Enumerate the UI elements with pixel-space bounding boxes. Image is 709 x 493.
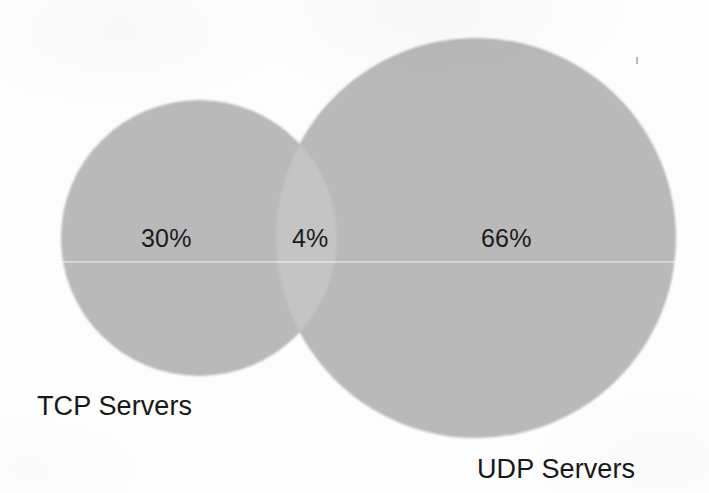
- percent-label-intersection: 4%: [292, 226, 329, 251]
- set-label-udp-servers: UDP Servers: [477, 456, 635, 483]
- percent-label-tcp-only: 30%: [141, 226, 192, 251]
- percent-label-udp-only: 66%: [481, 226, 532, 251]
- set-label-tcp-servers: TCP Servers: [37, 393, 192, 420]
- venn-diagram-figure: 30% 4% 66% TCP Servers UDP Servers: [0, 0, 709, 493]
